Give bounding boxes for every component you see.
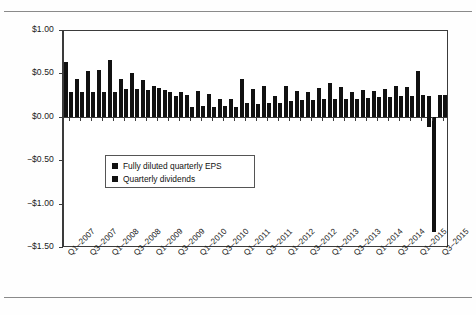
bar-dividend (179, 92, 183, 116)
x-axis-tick-mark (278, 117, 279, 121)
bar-dividend (190, 107, 194, 117)
x-axis-tick-mark (168, 117, 169, 121)
bar-dividend (377, 97, 381, 117)
bar-dividend (289, 101, 293, 117)
bar-dividend (135, 89, 139, 117)
x-axis-tick-mark (333, 117, 334, 121)
x-axis-tick-mark (267, 117, 268, 121)
bar-dividend (311, 100, 315, 116)
y-axis-tick-label: −$1.00 (0, 198, 54, 208)
bar-dividend (69, 92, 73, 116)
x-axis-tick-mark (410, 117, 411, 121)
x-axis-tick-mark (201, 117, 202, 121)
legend-item-dividends: Quarterly dividends (112, 173, 248, 185)
x-axis-tick-mark (102, 117, 103, 121)
x-axis-tick-mark (355, 117, 356, 121)
bar-dividend (80, 92, 84, 116)
bar-dividend (399, 96, 403, 117)
bar-dividend (124, 89, 128, 117)
x-axis-tick-mark (388, 117, 389, 121)
bar-dividend (300, 100, 304, 116)
bar-dividend (421, 95, 425, 117)
bar-dividend (146, 90, 150, 117)
bar-dividend (201, 106, 205, 116)
bar-dividend (223, 106, 227, 116)
bar-dividend (157, 88, 161, 117)
y-axis-tick-mark (59, 247, 63, 248)
legend-swatch-dividends-icon (112, 176, 118, 182)
chart-figure: $1.00$0.50$0.00−$0.50−$1.00−$1.50 Q1–200… (0, 0, 476, 315)
legend-item-eps: Fully diluted quarterly EPS (112, 160, 248, 172)
bar-dividend (245, 103, 249, 117)
x-axis-tick-mark (432, 117, 433, 121)
x-axis-tick-mark (212, 117, 213, 121)
x-axis-tick-mark (190, 117, 191, 121)
x-axis-tick-mark (157, 117, 158, 121)
legend-swatch-eps-icon (112, 163, 118, 169)
bar-dividend (113, 92, 117, 116)
bar-dividend (333, 99, 337, 116)
y-axis-tick-label: −$0.50 (0, 154, 54, 164)
x-axis-tick-mark (124, 117, 125, 121)
bar-dividend (344, 99, 348, 117)
x-axis-tick-mark (377, 117, 378, 121)
y-axis-tick-label: $0.00 (0, 111, 54, 121)
x-axis-tick-mark (135, 117, 136, 121)
x-axis-tick-mark (113, 117, 114, 121)
top-divider-rule (4, 11, 472, 12)
x-axis-tick-mark (443, 117, 444, 121)
bar-dividend (212, 107, 216, 117)
x-axis-tick-mark (234, 117, 235, 121)
legend-label-dividends: Quarterly dividends (123, 174, 195, 184)
bar-dividend (388, 97, 392, 117)
bar-dividend (443, 95, 447, 117)
bar-dividend (322, 99, 326, 116)
x-axis-tick-mark (69, 117, 70, 121)
bar-dividend (256, 104, 260, 117)
x-axis-tick-mark (245, 117, 246, 121)
bar-eps (427, 96, 431, 117)
x-axis-tick-mark (223, 117, 224, 121)
bottom-divider-rule (4, 297, 472, 298)
bar-dividend (410, 96, 414, 117)
y-axis-tick-label: $1.00 (0, 24, 54, 34)
y-axis-tick-label: −$1.50 (0, 241, 54, 251)
bars-layer (63, 30, 448, 247)
x-axis-tick-mark (256, 117, 257, 121)
x-axis-tick-mark (91, 117, 92, 121)
y-axis-tick-label: $0.50 (0, 67, 54, 77)
bar-dividend (366, 98, 370, 117)
chart-legend: Fully diluted quarterly EPS Quarterly di… (105, 155, 255, 188)
x-axis-tick-mark (399, 117, 400, 121)
bar-dividend (168, 92, 172, 116)
bar-dividend (432, 117, 436, 232)
x-axis-tick-mark (179, 117, 180, 121)
x-axis-tick-mark (311, 117, 312, 121)
bar-dividend (91, 92, 95, 116)
x-axis-tick-mark (421, 117, 422, 121)
bar-dividend (355, 99, 359, 117)
x-axis-tick-mark (300, 117, 301, 121)
x-axis-tick-mark (289, 117, 290, 121)
plot-area (63, 30, 448, 247)
x-axis-tick-mark (344, 117, 345, 121)
x-axis-tick-mark (366, 117, 367, 121)
x-axis-tick-mark (146, 117, 147, 121)
bar-dividend (267, 103, 271, 117)
legend-label-eps: Fully diluted quarterly EPS (123, 161, 222, 171)
x-axis-tick-mark (322, 117, 323, 121)
x-axis-tick-mark (80, 117, 81, 121)
bar-dividend (234, 107, 238, 117)
bar-dividend (278, 103, 282, 117)
bar-dividend (102, 92, 106, 116)
